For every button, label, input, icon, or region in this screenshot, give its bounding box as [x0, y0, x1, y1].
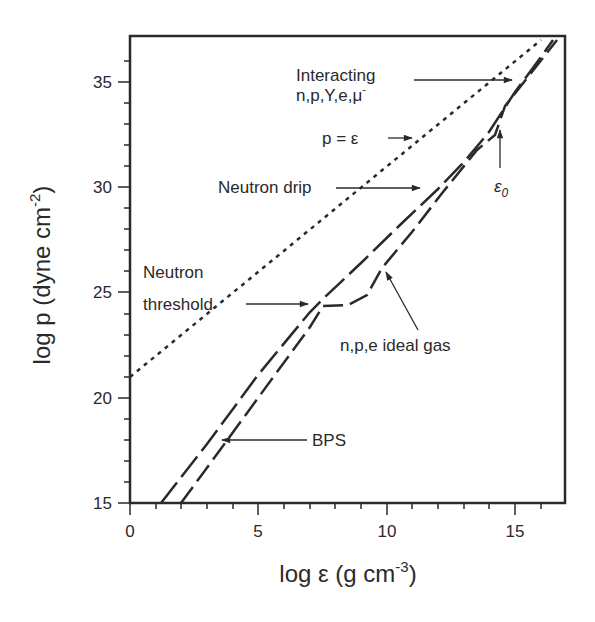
x-tick-labels: 0 5 10 15	[125, 522, 524, 541]
chart-root: 15 20 25 30 35 0 5 10 15 log ε (g cm-3) …	[0, 0, 595, 622]
curve-npe-ideal-gas	[181, 40, 557, 503]
y-tick-15: 15	[93, 494, 112, 513]
anno-npe-ideal-gas: n,p,e ideal gas	[340, 336, 451, 355]
x-axis-title: log ε (g cm-3)	[279, 558, 416, 587]
arrow-npe-ideal-gas	[386, 272, 418, 330]
x-tick-0: 0	[125, 522, 134, 541]
y-tick-labels: 15 20 25 30 35	[93, 73, 112, 513]
x-tick-5: 5	[253, 522, 262, 541]
y-axis-ticks	[118, 61, 130, 503]
anno-interacting-line2: n,p,Y,e,μ-	[296, 83, 366, 105]
y-tick-30: 30	[93, 178, 112, 197]
x-axis-ticks	[130, 503, 541, 515]
x-tick-15: 15	[506, 522, 525, 541]
anno-eps0: ε0	[494, 177, 508, 200]
y-tick-35: 35	[93, 73, 112, 92]
anno-neutron-line1: Neutron	[143, 263, 203, 282]
annotations: Interacting n,p,Y,e,μ- p = ε Neutron dri…	[143, 66, 512, 450]
anno-neutron-drip: Neutron drip	[218, 178, 312, 197]
curve-bps	[161, 40, 553, 503]
anno-neutron-line2: threshold	[143, 295, 213, 314]
anno-p-equals-eps: p = ε	[322, 129, 359, 148]
y-axis-title: log p (dyne cm-2)	[26, 186, 55, 365]
y-tick-25: 25	[93, 283, 112, 302]
anno-bps: BPS	[312, 431, 346, 450]
y-tick-20: 20	[93, 389, 112, 408]
x-tick-10: 10	[378, 522, 397, 541]
